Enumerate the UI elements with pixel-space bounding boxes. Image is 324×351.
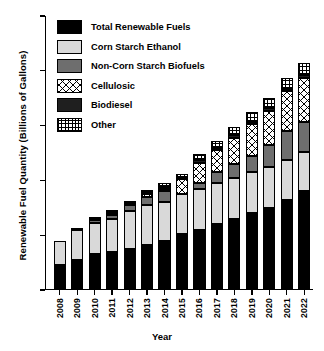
bar-2013 <box>141 190 153 290</box>
bar-segment-noncorn-2014 <box>158 191 170 202</box>
bar-2019 <box>246 112 258 290</box>
legend-swatch-other-icon <box>57 118 82 132</box>
bar-segment-corn-2020 <box>263 167 275 208</box>
legend-label-cellulosic: Cellulosic <box>91 81 135 91</box>
legend-item-corn[interactable]: Corn Starch Ethanol <box>57 38 205 56</box>
x-tick-label-2013: 2013 <box>142 298 152 318</box>
x-tick-mark <box>251 290 252 295</box>
bar-segment-other-2013 <box>141 190 153 193</box>
bar-segment-corn-2022 <box>298 152 310 192</box>
x-tick-mark <box>199 290 200 295</box>
y-axis-line <box>45 16 46 290</box>
bar-2011 <box>106 211 118 290</box>
y-tick-mark <box>40 70 45 71</box>
bar-segment-biodiesel-2017 <box>211 148 223 151</box>
bar-2014 <box>158 183 170 290</box>
bar-segment-other-2019 <box>246 112 258 122</box>
legend-label-biodiesel: Biodiesel <box>91 100 132 110</box>
legend-swatch-total-icon <box>57 20 82 34</box>
bar-segment-corn-2015 <box>176 194 188 234</box>
y-tick-mark <box>40 125 45 126</box>
bar-segment-total-2016 <box>193 230 205 290</box>
bar-segment-other-2016 <box>193 154 205 159</box>
x-tick-mark <box>164 290 165 295</box>
x-tick-label-2014: 2014 <box>160 298 170 318</box>
bar-segment-noncorn-2012 <box>124 205 136 210</box>
stacked-bar-chart: Renewable Fuel Quantity (Billions of Gal… <box>0 0 324 351</box>
bar-2017 <box>211 141 223 290</box>
x-tick-mark <box>146 290 147 295</box>
bar-segment-total-2019 <box>246 213 258 290</box>
x-tick-label-2010: 2010 <box>90 298 100 318</box>
bar-segment-total-2010 <box>89 254 101 290</box>
bar-segment-cellulosic-2021 <box>281 91 293 131</box>
x-tick-label-2017: 2017 <box>212 298 222 318</box>
bar-segment-biodiesel-2018 <box>228 135 240 138</box>
bar-segment-total-2018 <box>228 219 240 290</box>
bar-segment-cellulosic-2020 <box>263 111 275 145</box>
bar-segment-total-2020 <box>263 208 275 290</box>
bar-segment-cellulosic-2013 <box>141 194 153 197</box>
bar-segment-cellulosic-2017 <box>211 150 223 172</box>
bar-segment-total-2008 <box>54 265 66 290</box>
bar-segment-other-2022 <box>298 63 310 75</box>
bar-segment-total-2012 <box>124 249 136 290</box>
bar-segment-biodiesel-2016 <box>193 160 205 163</box>
bar-segment-biodiesel-2020 <box>263 108 275 111</box>
legend-item-cellulosic[interactable]: Cellulosic <box>57 77 205 95</box>
x-tick-mark <box>129 290 130 295</box>
x-tick-mark <box>216 290 217 295</box>
bar-segment-other-2011 <box>106 210 118 212</box>
bar-segment-cellulosic-2014 <box>158 189 170 192</box>
bar-segment-biodiesel-2019 <box>246 122 258 125</box>
bar-2018 <box>228 127 240 290</box>
bar-segment-corn-2014 <box>158 202 170 240</box>
bar-segment-noncorn-2011 <box>106 215 118 219</box>
legend-item-noncorn[interactable]: Non-Corn Starch Biofuels <box>57 57 205 75</box>
x-tick-mark <box>286 290 287 295</box>
bar-segment-corn-2010 <box>89 223 101 255</box>
x-axis-title: Year <box>0 331 324 342</box>
bar-segment-biodiesel-2009 <box>71 228 83 230</box>
x-tick-label-2020: 2020 <box>264 298 274 318</box>
x-tick-label-2021: 2021 <box>282 298 292 318</box>
bar-segment-corn-2021 <box>281 160 293 200</box>
x-tick-label-2016: 2016 <box>194 298 204 318</box>
bar-segment-other-2012 <box>124 201 136 204</box>
bar-segment-other-2020 <box>263 98 275 108</box>
x-tick-label-2012: 2012 <box>125 298 135 318</box>
x-tick-label-2022: 2022 <box>299 298 309 318</box>
bar-segment-corn-2008 <box>54 241 66 266</box>
bar-segment-corn-2009 <box>71 230 83 260</box>
legend-item-other[interactable]: Other <box>57 116 205 134</box>
bar-segment-total-2009 <box>71 260 83 290</box>
x-tick-label-2011: 2011 <box>107 298 117 317</box>
legend-label-other: Other <box>91 120 116 130</box>
x-tick-label-2015: 2015 <box>177 298 187 318</box>
bar-segment-corn-2019 <box>246 172 258 213</box>
legend-swatch-noncorn-icon <box>57 59 82 73</box>
bar-segment-corn-2011 <box>106 219 118 252</box>
bar-segment-cellulosic-2016 <box>193 163 205 184</box>
bar-segment-biodiesel-2022 <box>298 75 310 78</box>
legend-swatch-cellulosic-icon <box>57 79 82 93</box>
x-tick-mark <box>181 290 182 295</box>
bar-segment-noncorn-2022 <box>298 122 310 152</box>
bar-segment-cellulosic-2018 <box>228 138 240 164</box>
legend-item-total[interactable]: Total Renewable Fuels <box>57 18 205 36</box>
chart-legend: Total Renewable FuelsCorn Starch Ethanol… <box>57 18 205 135</box>
bar-segment-corn-2012 <box>124 211 136 249</box>
bar-segment-noncorn-2018 <box>228 164 240 178</box>
bar-2010 <box>89 217 101 290</box>
bar-segment-noncorn-2020 <box>263 145 275 167</box>
bar-segment-corn-2016 <box>193 189 205 230</box>
x-tick-mark <box>59 290 60 295</box>
bar-segment-total-2017 <box>211 224 223 290</box>
bar-2022 <box>298 63 310 290</box>
bar-segment-corn-2017 <box>211 183 223 224</box>
legend-item-biodiesel[interactable]: Biodiesel <box>57 96 205 114</box>
bar-segment-noncorn-2019 <box>246 156 258 172</box>
legend-swatch-biodiesel-icon <box>57 98 82 112</box>
bar-segment-total-2015 <box>176 234 188 290</box>
bar-segment-corn-2018 <box>228 178 240 219</box>
